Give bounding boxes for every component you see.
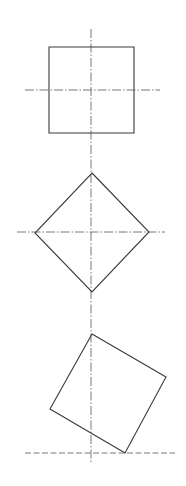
tilted-square <box>50 334 166 453</box>
figure-tilted-square <box>25 334 175 453</box>
diagram-canvas <box>0 0 186 486</box>
figure-upright-square <box>25 47 160 133</box>
diamond-square <box>35 173 149 292</box>
